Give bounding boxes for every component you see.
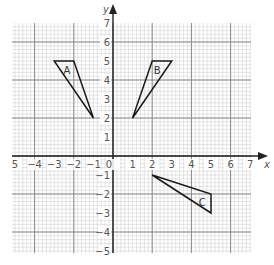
x-tick-label: 5 bbox=[208, 159, 214, 170]
x-tick-label: 6 bbox=[227, 159, 233, 170]
x-tick-label: 0 bbox=[106, 159, 112, 170]
y-axis-arrow-icon bbox=[109, 4, 117, 14]
y-tick-label: 4 bbox=[104, 75, 110, 86]
x-tick-label: 7 bbox=[247, 159, 253, 170]
y-tick-label: −3 bbox=[95, 208, 110, 219]
triangle-label-a: A bbox=[64, 65, 71, 76]
x-tick-label: 5 bbox=[12, 159, 18, 170]
x-tick-label: 1 bbox=[129, 159, 135, 170]
coordinate-plane: xy5−4−3−2−1012345671234567−1−2−3−4−5ABC bbox=[0, 0, 274, 265]
y-tick-label: 7 bbox=[104, 18, 110, 29]
x-tick-label: −2 bbox=[66, 159, 81, 170]
triangle-label-b: B bbox=[154, 65, 161, 76]
y-tick-label: −5 bbox=[95, 246, 110, 257]
y-tick-label: 2 bbox=[104, 113, 110, 124]
x-tick-label: 3 bbox=[169, 159, 175, 170]
triangle-label-c: C bbox=[199, 197, 206, 208]
y-tick-label: 1 bbox=[104, 132, 110, 143]
x-tick-label: 4 bbox=[188, 159, 194, 170]
x-tick-label: −1 bbox=[86, 159, 101, 170]
y-tick-label: −1 bbox=[95, 170, 110, 181]
coordinate-grid-figure: xy5−4−3−2−1012345671234567−1−2−3−4−5ABC bbox=[0, 0, 274, 265]
y-tick-label: −2 bbox=[95, 189, 110, 200]
x-tick-label: −3 bbox=[47, 159, 62, 170]
y-tick-label: 6 bbox=[104, 37, 110, 48]
y-tick-label: 3 bbox=[104, 94, 110, 105]
x-tick-label: 2 bbox=[149, 159, 155, 170]
y-tick-label: 5 bbox=[104, 56, 110, 67]
x-axis-label: x bbox=[263, 159, 270, 170]
y-axis-label: y bbox=[102, 4, 110, 15]
y-tick-label: −4 bbox=[95, 227, 110, 238]
x-tick-label: −4 bbox=[27, 159, 42, 170]
